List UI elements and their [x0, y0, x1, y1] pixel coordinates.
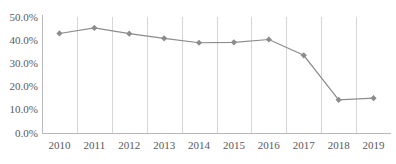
series-data-point: [196, 40, 202, 46]
series-plot: [0, 0, 396, 164]
series-data-point: [370, 95, 376, 101]
series-data-point: [161, 35, 167, 41]
line-chart: 0.0%10.0%20.0%30.0%40.0%50.0% 2010201120…: [0, 0, 396, 164]
series-data-point: [231, 39, 237, 45]
series-data-point: [126, 31, 132, 37]
series-data-point: [91, 25, 97, 31]
series-data-point: [266, 36, 272, 42]
series-data-point: [56, 30, 62, 36]
series-marker-group: [56, 25, 376, 103]
series-line: [59, 28, 373, 100]
